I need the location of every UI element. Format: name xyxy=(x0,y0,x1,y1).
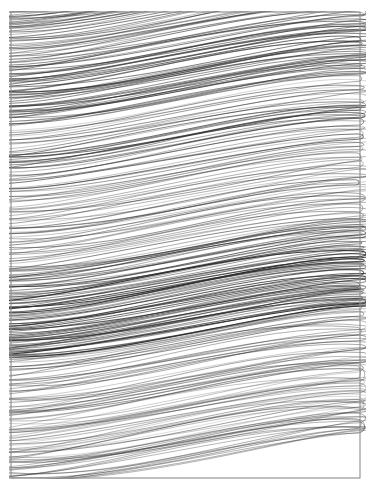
scribble-drawing xyxy=(0,0,374,492)
artboard xyxy=(0,0,374,492)
